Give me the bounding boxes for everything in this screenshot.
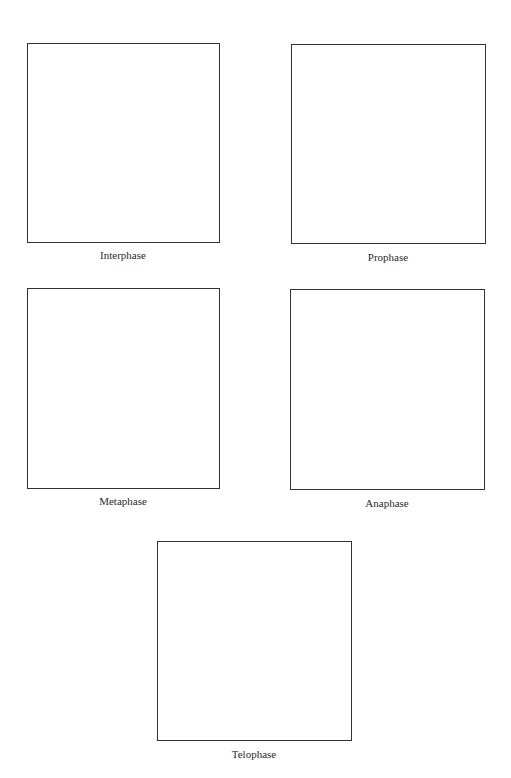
label-telophase: Telophase — [232, 749, 276, 760]
label-anaphase: Anaphase — [365, 498, 408, 509]
drawing-box-anaphase[interactable] — [290, 289, 485, 490]
drawing-box-prophase[interactable] — [291, 44, 486, 244]
label-prophase: Prophase — [368, 252, 408, 263]
drawing-box-metaphase[interactable] — [27, 288, 220, 489]
drawing-box-interphase[interactable] — [27, 43, 220, 243]
label-metaphase: Metaphase — [99, 496, 147, 507]
drawing-box-telophase[interactable] — [157, 541, 352, 741]
label-interphase: Interphase — [100, 250, 146, 261]
